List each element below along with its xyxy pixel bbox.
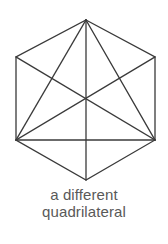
figure-caption: a different quadrilateral bbox=[0, 186, 168, 220]
caption-line-1: a different bbox=[0, 186, 168, 203]
figure-card: a different quadrilateral bbox=[0, 0, 168, 244]
hexagon-chords bbox=[16, 20, 155, 180]
caption-line-2: quadrilateral bbox=[0, 203, 168, 220]
